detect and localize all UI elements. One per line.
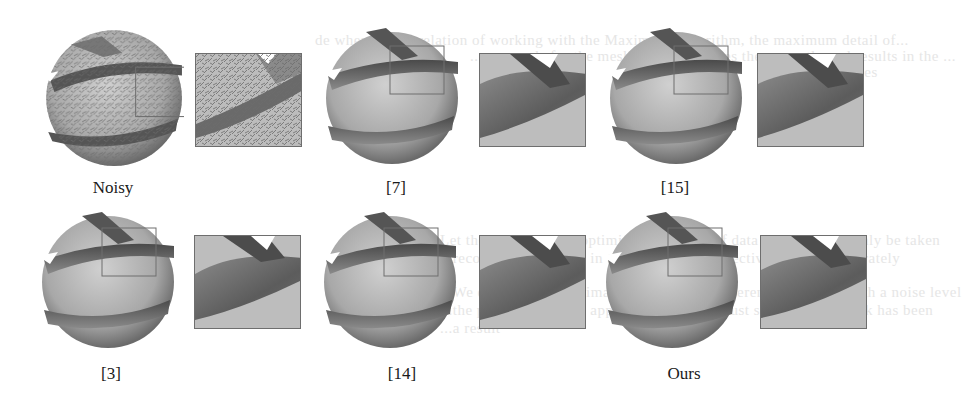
mesh-sphere-image (38, 210, 178, 350)
mesh-sphere-image (606, 26, 746, 166)
zoom-inset-image (479, 235, 586, 329)
zoom-inset-image (479, 53, 586, 147)
zoom-inset-image (194, 235, 301, 329)
zoom-inset-image (760, 235, 867, 329)
panel-label: Noisy (53, 178, 173, 198)
mesh-sphere-image (322, 26, 462, 166)
zoom-inset-image (757, 53, 864, 147)
zoom-inset-image (195, 53, 302, 147)
panel-label: [3] (51, 364, 171, 384)
mesh-sphere-image (40, 24, 184, 168)
mesh-sphere-image (320, 210, 460, 350)
mesh-sphere-image (602, 210, 742, 350)
panel-label: [7] (336, 178, 456, 198)
panel-label: [14] (342, 364, 462, 384)
panel-label: Ours (624, 364, 744, 384)
panel-label: [15] (615, 178, 735, 198)
